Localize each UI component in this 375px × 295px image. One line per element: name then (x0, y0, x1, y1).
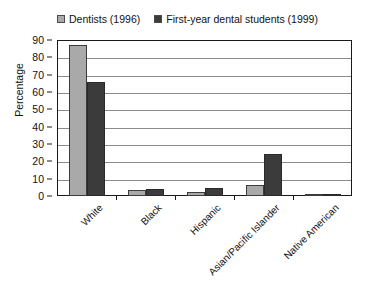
legend-swatch-dentists (57, 15, 65, 23)
y-tick-mark (47, 92, 52, 93)
x-tick-label: White (78, 202, 104, 228)
legend-label-students: First-year dental students (1999) (166, 13, 318, 25)
chart-legend: Dentists (1996) First-year dental studen… (0, 13, 375, 25)
y-tick-mark (47, 40, 52, 41)
y-tick-label: 20 (32, 156, 44, 167)
y-tick-label: 30 (32, 139, 44, 150)
gridline (58, 128, 351, 129)
y-tick-mark (47, 74, 52, 75)
gridline (58, 180, 351, 181)
y-tick-mark (47, 161, 52, 162)
y-tick-label: 90 (32, 35, 44, 46)
legend-label-dentists: Dentists (1996) (69, 13, 140, 25)
gridline (58, 110, 351, 111)
y-axis-labels: 0102030405060708090 (0, 40, 52, 196)
y-tick-label: 70 (32, 69, 44, 80)
bar-chart: Dentists (1996) First-year dental studen… (0, 0, 375, 295)
gridline (58, 76, 351, 77)
y-tick-label: 10 (32, 173, 44, 184)
gridline (58, 162, 351, 163)
y-tick-mark (47, 144, 52, 145)
y-tick-label: 80 (32, 52, 44, 63)
legend-entry-students: First-year dental students (1999) (154, 13, 318, 25)
y-tick-mark (47, 109, 52, 110)
x-tick-label: Native American (281, 202, 340, 261)
y-tick-mark (47, 178, 52, 179)
x-tick-label: Black (138, 202, 163, 227)
legend-swatch-students (154, 15, 162, 23)
y-tick-mark (47, 57, 52, 58)
gridline (58, 145, 351, 146)
x-axis-labels: WhiteBlackHispanicAsian/Pacific Islander… (0, 196, 375, 295)
plot-area (57, 40, 352, 196)
gridline (58, 93, 351, 94)
x-tick-label: Hispanic (187, 202, 222, 237)
y-tick-label: 60 (32, 87, 44, 98)
legend-entry-dentists: Dentists (1996) (57, 13, 140, 25)
gridline (58, 58, 351, 59)
gridlines (58, 41, 351, 195)
y-tick-mark (47, 126, 52, 127)
y-tick-label: 40 (32, 121, 44, 132)
y-tick-label: 50 (32, 104, 44, 115)
